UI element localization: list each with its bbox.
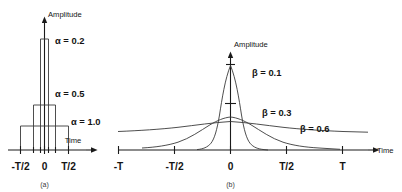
panel-b-curve-label-beta-01: β = 0.1 xyxy=(252,67,281,78)
panel-a-curve-label-alpha-05: α = 0.5 xyxy=(55,88,84,99)
panel-a-curve-label-alpha-02: α = 0.2 xyxy=(55,35,84,46)
panel-b-curve-label-beta-06: β = 0.6 xyxy=(300,123,329,134)
panel-b-tick-label-0: -T xyxy=(114,161,124,172)
panel-a-x-axis-label: Time xyxy=(65,136,82,145)
panel-a-tick-label-1: 0 xyxy=(42,161,48,172)
panel-b-x-axis-label: Time xyxy=(377,146,394,155)
panel-b-tick-label-4: T xyxy=(339,161,346,172)
panel-b-tick-label-3: T/2 xyxy=(279,161,294,172)
panel-a-caption: (a) xyxy=(40,181,49,189)
panel-a-y-axis-label: Amplitude xyxy=(48,10,82,19)
panel-a-tick-label-2: T/2 xyxy=(61,161,76,172)
panel-a-curve-label-alpha-10: α = 1.0 xyxy=(71,116,100,127)
panel-b-tick-label-1: -T/2 xyxy=(165,161,183,172)
panel-b: Amplitude Time -T -T/2 0 T/2 T β = 0.1 β… xyxy=(114,40,394,189)
panel-b-curve-beta-01 xyxy=(197,66,268,151)
panel-b-tick-label-2: 0 xyxy=(228,161,234,172)
panel-a-tick-label-0: -T/2 xyxy=(11,161,29,172)
figure-container: Amplitude Time -T/2 0 T/2 α = 0.2 α = 0.… xyxy=(0,0,402,192)
figure-svg: Amplitude Time -T/2 0 T/2 α = 0.2 α = 0.… xyxy=(0,0,402,192)
panel-b-y-axis-label: Amplitude xyxy=(234,40,268,49)
panel-a: Amplitude Time -T/2 0 T/2 α = 0.2 α = 0.… xyxy=(8,10,100,189)
panel-b-caption: (b) xyxy=(226,181,235,189)
panel-b-curve-label-beta-03: β = 0.3 xyxy=(262,107,291,118)
